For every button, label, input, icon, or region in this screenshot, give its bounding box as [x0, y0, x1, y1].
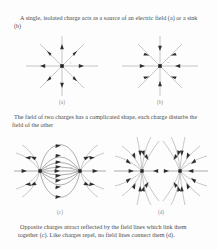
field-diagram-single-positive: +	[16, 33, 108, 99]
panel-label-d: (d)	[151, 209, 171, 215]
diagram-panel-d	[110, 134, 212, 208]
charge-sign-negative: −	[167, 60, 170, 65]
field-diagram-single-negative: −	[114, 33, 206, 99]
panel-label-b: (b)	[150, 99, 170, 105]
charge-marker-positive	[60, 64, 64, 68]
field-diagram-like-charges	[110, 134, 212, 208]
caption-top: A single, isolated charge acts as a sour…	[14, 14, 206, 31]
charge-marker-negative	[78, 169, 81, 172]
charge-marker-negative-right	[178, 169, 181, 172]
like-charge-field-lines	[114, 137, 208, 205]
caption-bottom: Opposite charges attract reflected by th…	[18, 223, 206, 240]
field-diagram-dipole: + −	[10, 134, 110, 208]
dipole-arrowheads	[22, 144, 98, 199]
charge-sign-negative: −	[70, 165, 73, 170]
charge-sign-positive: +	[69, 60, 72, 65]
caption-middle: The field of two charges has a complicat…	[12, 113, 208, 130]
panel-label-c: (c)	[50, 209, 70, 215]
charge-marker-negative-left	[140, 169, 143, 172]
panel-label-a: (a)	[52, 99, 72, 105]
charge-marker-positive	[38, 169, 41, 172]
charge-sign-positive: +	[45, 165, 48, 170]
diagram-panel-a: +	[16, 33, 108, 99]
charge-marker-negative	[158, 64, 162, 68]
diagram-panel-b: −	[114, 33, 206, 99]
figure-page: A single, isolated charge acts as a sour…	[0, 0, 217, 250]
diagram-panel-c: + −	[10, 134, 110, 208]
